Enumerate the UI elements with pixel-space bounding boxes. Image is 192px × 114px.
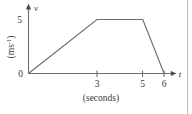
velocity-time-graph-figure: 5 0 v t 3 5 6 (seconds) (ms-1): [0, 0, 192, 114]
y-tick-label-5: 5: [17, 15, 22, 25]
x-axis-symbol-label: t: [179, 69, 182, 79]
y-axis-symbol-label: v: [34, 3, 38, 13]
y-axis-unit-group: (ms-1): [5, 36, 17, 59]
x-tick-label-6: 6: [162, 79, 167, 89]
graph-canvas: 5 0 v t 3 5 6 (seconds) (ms-1): [0, 0, 192, 114]
y-unit-close: ): [6, 36, 17, 39]
x-tick-label-3: 3: [95, 79, 100, 89]
x-axis-caption: (seconds): [83, 93, 119, 104]
x-axis-arrow-icon: [171, 71, 177, 76]
x-tick-label-5: 5: [140, 79, 145, 89]
velocity-data-line: [29, 20, 164, 74]
y-unit-open: (ms: [6, 44, 17, 59]
y-axis-unit-label: (ms-1): [5, 36, 17, 59]
y-axis-arrow-icon: [26, 4, 31, 10]
origin-label: 0: [18, 69, 23, 79]
